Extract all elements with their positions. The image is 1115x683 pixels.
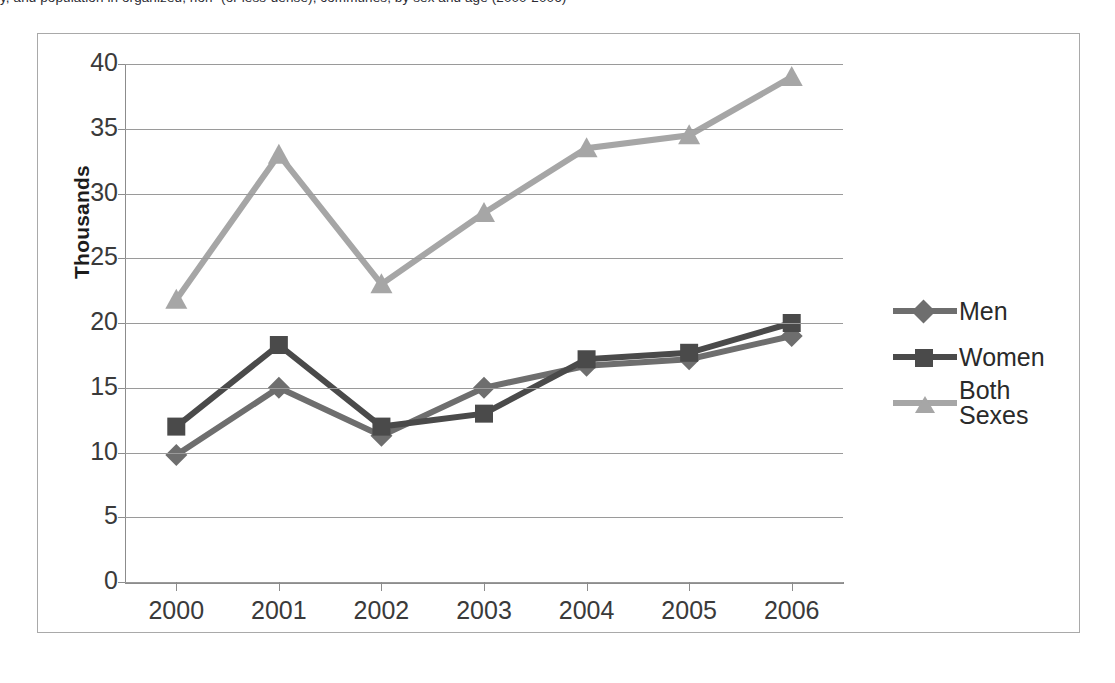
gridline <box>125 129 843 130</box>
x-axis-tick <box>689 582 690 591</box>
y-axis-tick <box>118 517 125 518</box>
x-axis-tick-label: 2005 <box>634 596 744 625</box>
y-axis-tick <box>118 582 125 583</box>
gridline <box>125 64 843 65</box>
data-point <box>578 350 596 368</box>
chart-legend: MenWomenBoth Sexes <box>893 288 1073 426</box>
y-axis-tick <box>118 129 125 130</box>
x-axis-tick-label: 2002 <box>326 596 436 625</box>
legend-item-label: Women <box>959 345 1045 370</box>
y-axis-tick <box>118 194 125 195</box>
diamond-marker <box>911 299 935 323</box>
gridline <box>125 323 843 324</box>
clipped-caption: y, and population in organized, non- (or… <box>0 0 1115 5</box>
data-point <box>270 336 288 354</box>
series-line <box>176 77 791 300</box>
legend-swatch <box>893 391 957 415</box>
legend-swatch <box>893 299 957 323</box>
plot-area <box>125 64 843 582</box>
y-axis-tick-label: 0 <box>72 568 118 593</box>
data-point <box>372 418 390 436</box>
gridline <box>125 388 843 389</box>
y-axis-tick-label: 10 <box>72 439 118 464</box>
x-axis-tick <box>792 582 793 591</box>
y-axis-tick-labels: 4035302520151050 <box>58 0 118 683</box>
x-axis-tick-label: 2006 <box>737 596 847 625</box>
x-axis-tick <box>587 582 588 591</box>
legend-swatch <box>893 345 957 369</box>
y-axis-tick-label: 5 <box>72 503 118 528</box>
series-both-sexes <box>165 66 802 309</box>
triangle-marker <box>915 396 935 413</box>
y-axis-tick-label: 30 <box>72 180 118 205</box>
y-axis-tick-label: 25 <box>72 244 118 269</box>
y-axis-tick <box>118 258 125 259</box>
x-axis-tick <box>381 582 382 591</box>
legend-item-men[interactable]: Men <box>893 288 1073 334</box>
data-point <box>680 344 698 362</box>
gridline <box>125 453 843 454</box>
data-point <box>167 418 185 436</box>
legend-item-label: Both Sexes <box>959 378 1073 428</box>
y-axis-tick <box>118 323 125 324</box>
data-point <box>268 144 290 164</box>
x-axis-tick <box>176 582 177 591</box>
gridline <box>125 258 843 259</box>
legend-item-women[interactable]: Women <box>893 334 1073 380</box>
x-axis-tick-label: 2003 <box>429 596 539 625</box>
x-axis-tick-label: 2001 <box>224 596 334 625</box>
series-women <box>167 314 800 436</box>
y-axis-tick-label: 35 <box>72 115 118 140</box>
gridline <box>125 517 843 518</box>
y-axis-tick-label: 20 <box>72 309 118 334</box>
gridline <box>125 194 843 195</box>
legend-item-label: Men <box>959 299 1008 324</box>
x-axis-tick <box>279 582 280 591</box>
x-axis-tick-label: 2004 <box>532 596 642 625</box>
y-axis-tick <box>118 388 125 389</box>
data-point <box>475 405 493 423</box>
x-axis-tick <box>484 582 485 591</box>
legend-item-both-sexes[interactable]: Both Sexes <box>893 380 1073 426</box>
x-axis-tick-label: 2000 <box>121 596 231 625</box>
data-point <box>781 66 803 86</box>
y-axis-tick <box>118 64 125 65</box>
square-marker <box>915 349 933 367</box>
y-axis-tick-label: 15 <box>72 374 118 399</box>
y-axis-tick-label: 40 <box>72 50 118 75</box>
y-axis-tick <box>118 453 125 454</box>
